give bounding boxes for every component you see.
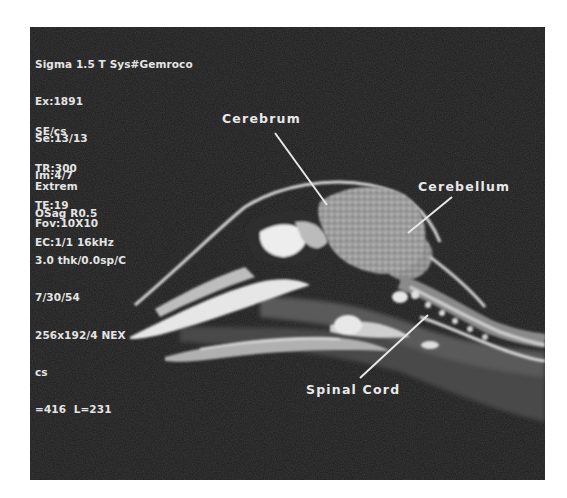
label-spinal-cord: Spinal Cord: [306, 382, 400, 397]
sequence: SE/cs: [35, 125, 114, 137]
label-cerebrum: Cerebrum: [222, 111, 301, 126]
mri-image-panel: Sigma 1.5 T Sys#Gemroco Ex:1891 Se:13/13…: [30, 27, 545, 480]
field-of-view: Fov:10X10: [35, 217, 126, 229]
date: 7/30/54: [35, 291, 126, 303]
scanner-id: Sigma 1.5 T Sys#Gemroco: [35, 58, 193, 70]
slice-thickness: 3.0 thk/0.0sp/C: [35, 254, 126, 266]
matrix: 256x192/4 NEX: [35, 329, 126, 341]
cs-flag: cs: [35, 366, 126, 378]
label-cerebellum: Cerebellum: [418, 179, 510, 194]
coil: Extrem: [35, 180, 126, 192]
window-level: =416 L=231: [35, 403, 126, 415]
scan-info-block-3: Extrem Fov:10X10 3.0 thk/0.0sp/C 7/30/54…: [35, 155, 126, 440]
